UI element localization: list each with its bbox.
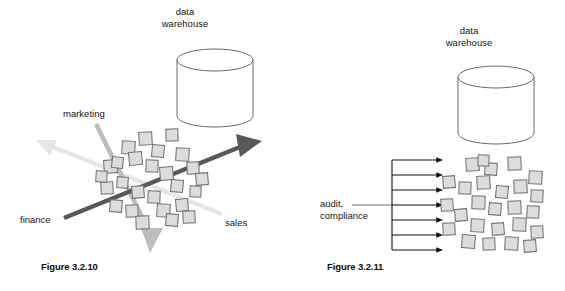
data-warehouse-label-right: datawarehouse	[435, 25, 503, 48]
dw-left-line2: warehouse	[162, 18, 208, 29]
data-square	[175, 198, 188, 211]
data-square	[508, 201, 521, 214]
data-square	[483, 238, 495, 250]
audit-compliance-label: audit,compliance	[320, 198, 368, 221]
data-square	[148, 191, 160, 203]
data-square	[132, 186, 145, 199]
figure-right-group	[352, 66, 543, 252]
data-square	[110, 200, 123, 213]
audit-line2: compliance	[320, 210, 368, 221]
data-warehouse-label-left: datawarehouse	[151, 6, 219, 29]
data-square	[166, 214, 179, 227]
data-square	[531, 190, 544, 203]
data-square	[170, 179, 183, 192]
audit-line1: audit,	[320, 198, 343, 209]
data-square	[455, 209, 468, 222]
figure-caption-right: Figure 3.2.11	[327, 261, 383, 272]
data-square	[176, 148, 190, 162]
data-square	[478, 155, 489, 166]
data-square	[183, 211, 196, 224]
data-square	[466, 158, 480, 172]
cylinder-left	[177, 49, 253, 127]
axis-label-finance: finance	[20, 214, 51, 226]
data-square	[459, 182, 471, 194]
axis-label-marketing: marketing	[63, 108, 105, 120]
data-square	[166, 129, 178, 141]
data-square	[495, 185, 508, 198]
data-square	[441, 199, 454, 212]
data-square	[513, 218, 526, 231]
data-square	[117, 177, 129, 189]
data-square	[443, 176, 456, 189]
data-square	[196, 173, 209, 186]
data-square	[146, 160, 158, 172]
data-square	[101, 182, 114, 195]
data-square	[462, 235, 476, 249]
data-square	[111, 156, 123, 168]
data-square	[139, 132, 153, 146]
data-square	[508, 157, 521, 170]
data-square	[531, 226, 544, 239]
data-square	[524, 240, 537, 253]
left-square-cluster	[96, 129, 209, 229]
axis-label-sales: sales	[225, 217, 247, 229]
data-square	[492, 223, 505, 236]
data-square	[128, 151, 142, 165]
dw-right-line2: warehouse	[446, 37, 492, 48]
data-square	[514, 180, 527, 193]
dw-right-line1: data	[460, 25, 479, 36]
data-square	[136, 216, 149, 229]
data-square	[126, 205, 139, 218]
data-square	[527, 206, 540, 219]
figure-caption-left: Figure 3.2.10	[41, 261, 98, 272]
data-square	[151, 144, 164, 157]
figure-stage: datawarehouse marketing finance sales Fi…	[0, 0, 565, 291]
data-square	[187, 162, 199, 174]
right-square-cluster	[441, 155, 544, 253]
data-square	[443, 223, 456, 236]
data-square	[160, 167, 174, 181]
data-square	[477, 176, 491, 190]
dw-left-line1: data	[176, 6, 195, 17]
data-square	[96, 171, 108, 183]
audit-arrow-manifold	[392, 160, 438, 250]
data-square	[489, 203, 502, 216]
data-square	[471, 219, 485, 233]
data-square	[472, 196, 485, 209]
cylinder-right	[458, 66, 534, 144]
data-square	[190, 186, 201, 197]
data-square	[505, 237, 519, 251]
data-square	[529, 171, 543, 185]
